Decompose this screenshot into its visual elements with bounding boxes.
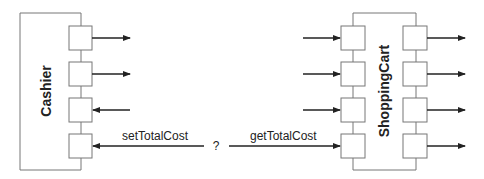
cart-left-port-2 <box>341 62 365 86</box>
cart-left-port-4 <box>341 134 365 158</box>
cart-right-port-1 <box>403 26 427 50</box>
component-diagram: Cashier setTotalCost ? getTotalCost Shop… <box>0 0 484 179</box>
cart-left-port-3 <box>341 98 365 122</box>
unknown-connector-label: ? <box>213 139 220 153</box>
cashier-component: Cashier <box>20 13 92 170</box>
settotalcost-label: setTotalCost <box>122 129 189 143</box>
cashier-port-1 <box>69 26 92 50</box>
cart-right-port-2 <box>403 62 427 86</box>
cart-right-port-3 <box>403 98 427 122</box>
cart-right-port-4 <box>403 134 427 158</box>
shoppingcart-label: ShoppingCart <box>376 44 392 137</box>
cashier-label: Cashier <box>38 65 54 117</box>
gettotalcost-label: getTotalCost <box>250 129 317 143</box>
cashier-port-4 <box>69 134 92 158</box>
cashier-port-2 <box>69 62 92 86</box>
cashier-port-3 <box>69 98 92 122</box>
shoppingcart-component: ShoppingCart <box>341 13 427 170</box>
cart-left-port-1 <box>341 26 365 50</box>
